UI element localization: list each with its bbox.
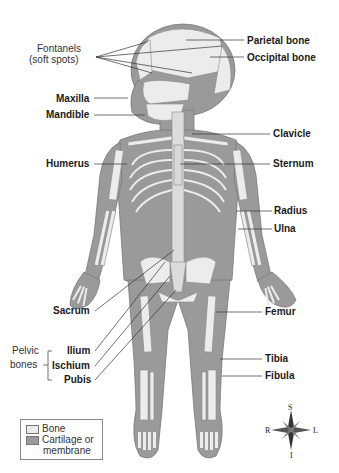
label-sacrum: Sacrum <box>53 305 90 316</box>
label-femur: Femur <box>265 306 296 317</box>
parietal-bone <box>148 29 226 78</box>
fibula <box>150 372 154 420</box>
legend-item-bone: Bone <box>26 424 65 434</box>
label-parietal-bone: Parietal bone <box>247 35 310 46</box>
legend-label-cartilage: Cartilage or <box>42 434 94 445</box>
label-pelvic-bones-line1: Pelvic <box>12 345 39 356</box>
label-clavicle: Clavicle <box>273 128 311 139</box>
label-radius: Radius <box>274 205 307 216</box>
label-maxilla: Maxilla <box>56 93 89 104</box>
legend-item-cartilage: Cartilage or <box>26 435 94 445</box>
compass-superior: S <box>288 403 292 412</box>
label-fontanels-line1: Fontanels <box>37 43 81 54</box>
label-ischium: Ischium <box>52 360 90 371</box>
compass-left: L <box>313 426 318 435</box>
sternum <box>174 145 182 185</box>
compass-icon <box>271 410 311 450</box>
label-ilium: Ilium <box>67 345 90 356</box>
legend-label-bone: Bone <box>42 423 65 434</box>
label-pelvic-bones-line2: bones <box>10 359 37 370</box>
spine <box>172 112 184 282</box>
label-fibula: Fibula <box>265 370 294 381</box>
bones <box>72 29 280 450</box>
legend-label-membrane: membrane <box>43 446 91 456</box>
bone-swatch <box>26 425 39 434</box>
label-sternum: Sternum <box>273 158 314 169</box>
label-ulna: Ulna <box>274 223 296 234</box>
label-humerus: Humerus <box>46 158 89 169</box>
compass-right: R <box>265 426 270 435</box>
label-fontanels-line2: (soft spots) <box>29 54 78 65</box>
label-pubis: Pubis <box>64 374 91 385</box>
tibia <box>140 370 148 420</box>
label-tibia: Tibia <box>265 353 288 364</box>
foot-bones <box>138 432 218 450</box>
maxilla <box>143 80 190 104</box>
label-mandible: Mandible <box>46 109 89 120</box>
legend: Bone Cartilage or membrane <box>20 419 103 460</box>
compass-inferior: I <box>290 451 293 460</box>
cartilage-swatch <box>26 436 39 445</box>
label-occipital-bone: Occipital bone <box>247 52 316 63</box>
